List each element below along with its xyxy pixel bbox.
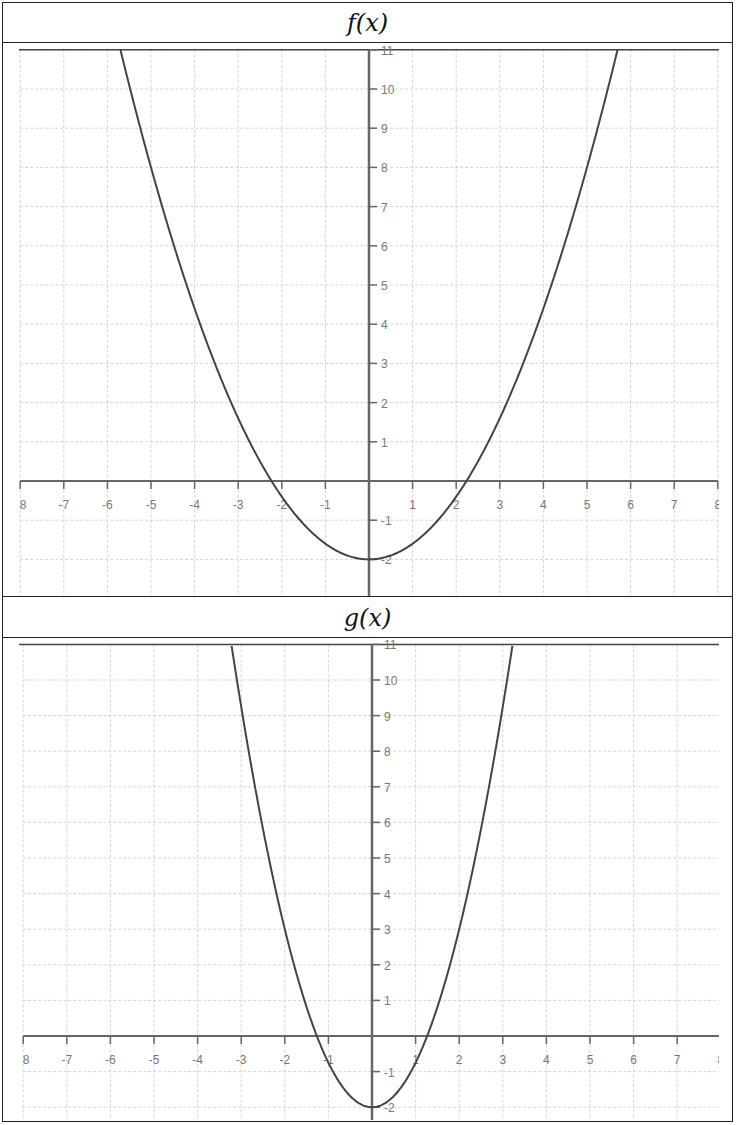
x-tick-label: -6 — [105, 1053, 116, 1067]
y-tick-label: 7 — [384, 781, 391, 795]
panel-title-g: g(x) — [3, 596, 732, 638]
x-tick-label: 2 — [456, 1053, 463, 1067]
y-tick-label: 4 — [381, 318, 388, 332]
x-tick-label: -3 — [236, 1053, 247, 1067]
x-tick-label: -2 — [279, 1053, 290, 1067]
y-tick-label: 9 — [384, 710, 391, 724]
y-tick-label: -1 — [384, 1066, 395, 1080]
x-tick-label: 4 — [540, 498, 547, 512]
x-tick-label: 4 — [543, 1053, 550, 1067]
x-tick-label: 5 — [587, 1053, 594, 1067]
y-tick-label: 2 — [384, 959, 391, 973]
x-tick-label: -1 — [320, 498, 331, 512]
y-tick-label: 6 — [384, 816, 391, 830]
x-tick-label: -6 — [102, 498, 113, 512]
x-tick-label: -2 — [276, 498, 287, 512]
x-tick-label: 8 — [717, 1053, 719, 1067]
x-tick-label: 7 — [674, 1053, 681, 1067]
y-tick-label: 5 — [384, 852, 391, 866]
y-tick-label: 11 — [384, 638, 397, 652]
y-tick-label: 10 — [384, 674, 398, 688]
y-tick-label: -1 — [381, 514, 392, 528]
y-tick-label: 7 — [381, 201, 388, 215]
x-tick-label: -5 — [146, 498, 157, 512]
x-tick-label: 1 — [409, 498, 416, 512]
x-tick-label: -4 — [192, 1053, 203, 1067]
panel-title-f: f(x) — [3, 3, 732, 43]
x-tick-label: 8 — [20, 498, 27, 512]
x-tick-label: -5 — [149, 1053, 160, 1067]
y-tick-label: 8 — [384, 745, 391, 759]
x-tick-label: 8 — [23, 1053, 30, 1067]
x-tick-label: -4 — [189, 498, 200, 512]
x-tick-label: 6 — [630, 1053, 637, 1067]
x-tick-label: -7 — [58, 498, 69, 512]
x-tick-label: 3 — [499, 1053, 506, 1067]
y-tick-label: 1 — [381, 436, 388, 450]
graph-table: f(x) 8-7-6-5-4-3-2-112345678-2-112345678… — [2, 2, 733, 1122]
y-tick-label: 1 — [384, 994, 391, 1008]
graph-g: 8-7-6-5-4-3-2-112345678-2-11234567891011 — [19, 638, 719, 1120]
y-tick-label: 4 — [384, 888, 391, 902]
y-tick-label: 9 — [381, 122, 388, 136]
x-tick-label: 8 — [714, 498, 719, 512]
x-tick-label: 5 — [584, 498, 591, 512]
graph-f: 8-7-6-5-4-3-2-112345678-2-11234567891011 — [19, 43, 719, 597]
x-tick-label: 6 — [627, 498, 634, 512]
x-tick-label: -3 — [233, 498, 244, 512]
x-tick-label: 3 — [496, 498, 503, 512]
y-tick-label: 11 — [381, 44, 394, 58]
y-tick-label: 3 — [381, 357, 388, 371]
y-tick-label: 3 — [384, 923, 391, 937]
y-tick-label: 5 — [381, 279, 388, 293]
x-tick-label: 7 — [671, 498, 678, 512]
y-tick-label: 10 — [381, 83, 395, 97]
x-tick-label: -7 — [61, 1053, 72, 1067]
y-tick-label: 2 — [381, 397, 388, 411]
y-tick-label: 8 — [381, 161, 388, 175]
y-tick-label: 6 — [381, 240, 388, 254]
